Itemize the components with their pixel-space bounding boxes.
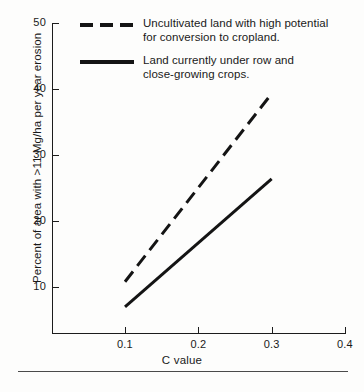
legend-swatch-dashed-icon xyxy=(80,23,134,27)
chart-legend: Uncultivated land with high potential fo… xyxy=(80,16,360,90)
legend-label-uncultivated: Uncultivated land with high potential fo… xyxy=(143,16,360,44)
legend-label-cultivated-line1: Land currently under row and xyxy=(143,54,294,66)
y-axis-title: Percent of area with >11 Mg/ha per year … xyxy=(31,33,43,283)
legend-label-uncultivated-line1: Uncultivated land with high potential xyxy=(143,17,328,29)
legend-label-uncultivated-line2: for conversion to cropland. xyxy=(143,31,280,43)
x-axis-title: C value xyxy=(0,354,364,366)
series-line-cultivated xyxy=(125,179,272,307)
legend-label-cultivated: Land currently under row and close-growi… xyxy=(143,53,360,81)
series-line-uncultivated xyxy=(125,94,272,282)
figure-bottom-rule xyxy=(18,371,348,372)
legend-label-cultivated-line2: close-growing crops. xyxy=(143,68,249,80)
legend-entry-uncultivated: Uncultivated land with high potential fo… xyxy=(80,16,360,44)
erosion-c-value-chart: 1020304050 0.10.20.30.4 Percent of area … xyxy=(0,0,364,392)
legend-swatch-solid-icon xyxy=(80,60,134,64)
legend-entry-cultivated: Land currently under row and close-growi… xyxy=(80,53,360,81)
